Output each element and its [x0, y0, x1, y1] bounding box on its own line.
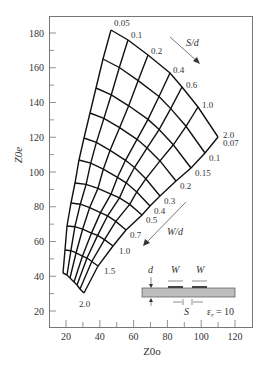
coupled-line-design-chart: 20406080100120140160180 20406080100120 Z… — [0, 0, 267, 366]
x-tick-label: 80 — [162, 331, 172, 342]
strip-1 — [168, 286, 183, 288]
w-over-d-value: 1.0 — [119, 246, 131, 256]
y-tick-label: 140 — [29, 97, 44, 108]
y-tick-label: 120 — [29, 132, 44, 143]
s-over-d-value: 1.0 — [202, 100, 214, 110]
w2-label: W — [196, 264, 206, 275]
y-tick-label: 100 — [29, 167, 44, 178]
s-over-d-value: 0.6 — [186, 80, 198, 90]
s-label: S — [184, 306, 189, 317]
w-over-d-label: W/d — [167, 226, 184, 237]
s-over-d-curve — [63, 30, 111, 273]
s-over-d-value: 0.4 — [173, 65, 185, 75]
y-tick-label: 160 — [29, 62, 44, 73]
x-tick-label: 20 — [61, 331, 71, 342]
y-tick-label: 60 — [34, 236, 44, 247]
y-tick-label: 80 — [34, 201, 44, 212]
y-tick-label: 180 — [29, 28, 44, 39]
er-label: εr= 10 — [207, 306, 234, 319]
d-label: d — [148, 264, 154, 275]
s-over-d-value: 0.05 — [114, 18, 130, 28]
s-over-d-curve — [70, 55, 148, 278]
strip-2 — [192, 286, 207, 288]
s-over-d-value: 0.1 — [131, 30, 142, 40]
y-axis-ticks: 20406080100120140160180 — [29, 28, 56, 317]
w-over-d-value: 0.5 — [146, 215, 158, 225]
y-axis-label: Z0e — [12, 147, 24, 164]
w-over-d-value: 0.07 — [223, 138, 239, 148]
w-over-d-value: 0.1 — [209, 153, 220, 163]
x-axis-ticks: 20406080100120 — [61, 320, 243, 342]
s-over-d-label: S/d — [186, 37, 200, 48]
x-tick-label: 60 — [129, 331, 139, 342]
substrate — [142, 288, 235, 297]
design-grid — [63, 30, 218, 293]
x-tick-label: 120 — [228, 331, 243, 342]
y-tick-label: 40 — [34, 271, 44, 282]
w-over-d-value: 0.7 — [130, 230, 142, 240]
w-over-d-value: 0.3 — [164, 196, 176, 206]
s-over-d-value: 0.2 — [151, 46, 162, 56]
w-over-d-value: 2.0 — [79, 299, 91, 309]
x-tick-label: 40 — [95, 331, 105, 342]
w-over-d-value: 0.15 — [195, 168, 211, 178]
coupled-stripline-inset: d W W S εr= 10 — [142, 264, 235, 319]
w-over-d-value: 0.2 — [180, 181, 191, 191]
x-tick-label: 100 — [194, 331, 209, 342]
y-tick-label: 20 — [34, 306, 44, 317]
w1-label: W — [171, 264, 181, 275]
x-axis-label: Z0o — [143, 345, 161, 357]
w-over-d-value: 1.5 — [104, 266, 116, 276]
